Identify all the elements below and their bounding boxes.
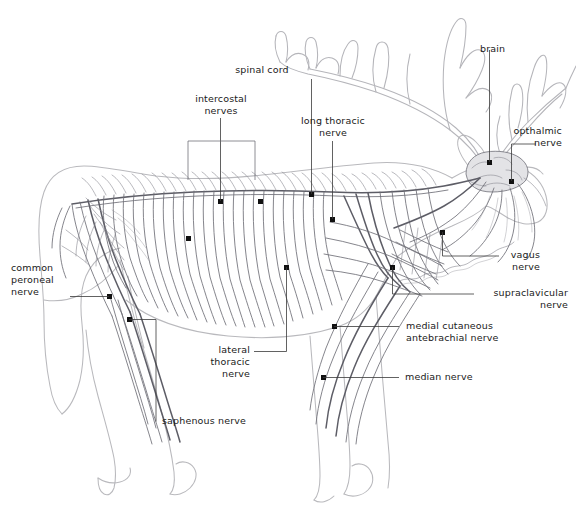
label-brain: brain [480, 43, 505, 55]
marker-intercostal-c [186, 236, 191, 241]
diagram-canvas: .body{fill:none;stroke:#b9b9bd;stroke-wi… [0, 0, 576, 514]
brain-structure [466, 151, 528, 192]
label-long-thoracic-nerve: long thoracic nerve [292, 115, 374, 139]
scapular-nerve-fan [86, 198, 150, 270]
label-intercostal-nerves: intercostal nerves [180, 93, 262, 117]
leader-lines [70, 50, 536, 422]
label-vagus-nerve: vagus nerve [462, 249, 540, 273]
label-saphenous-nerve: saphenous nerve [162, 415, 246, 427]
label-common-peroneal-nerve: common peroneal nerve [11, 262, 69, 299]
label-supraclavicular-nerve: supraclavicular nerve [420, 287, 568, 311]
label-lateral-thoracic-nerve: lateral thoracic nerve [186, 344, 250, 381]
label-opthalmic-nerve: opthalmic nerve [476, 125, 562, 149]
label-spinal-cord: spinal cord [224, 64, 300, 76]
label-medial-cutaneous-antebrachial-nerve: medial cutaneous antebrachial nerve [406, 320, 566, 344]
marker-intercostal-b [258, 199, 263, 204]
label-median-nerve: median nerve [405, 371, 473, 383]
